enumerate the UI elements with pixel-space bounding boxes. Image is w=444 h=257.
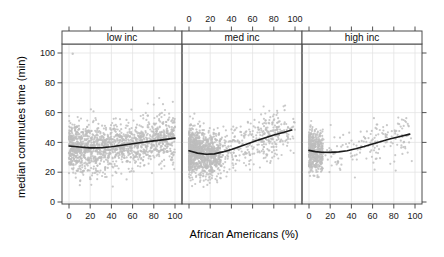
strip-label: high inc — [345, 32, 379, 43]
x-tick-label-bottom: 80 — [149, 211, 159, 221]
x-tick-label-bottom: 60 — [128, 211, 138, 221]
x-tick-label-bottom: 100 — [407, 211, 422, 221]
x-tick-label-top: 80 — [269, 14, 279, 24]
y-tick-label: 60 — [45, 108, 55, 118]
y-axis-title: median commutes time (min) — [15, 56, 27, 198]
x-tick-label-bottom: 80 — [389, 211, 399, 221]
x-tick-label-top: 0 — [186, 14, 191, 24]
plot-canvas: low inc020406080100med inc020406080100hi… — [0, 0, 444, 257]
y-tick-label: 100 — [40, 48, 55, 58]
x-tick-label-bottom: 0 — [306, 211, 311, 221]
x-tick-label-top: 20 — [205, 14, 215, 24]
lattice-figure: low inc020406080100med inc020406080100hi… — [0, 0, 444, 257]
strip-label: med inc — [224, 32, 259, 43]
x-tick-label-bottom: 0 — [66, 211, 71, 221]
x-tick-label-bottom: 40 — [346, 211, 356, 221]
x-tick-label-bottom: 40 — [106, 211, 116, 221]
x-tick-label-bottom: 20 — [85, 211, 95, 221]
x-tick-label-bottom: 20 — [325, 211, 335, 221]
y-tick-label: 20 — [45, 167, 55, 177]
x-tick-label-top: 40 — [226, 14, 236, 24]
x-tick-label-top: 60 — [248, 14, 258, 24]
x-tick-label-top: 100 — [287, 14, 302, 24]
x-tick-label-bottom: 60 — [368, 211, 378, 221]
y-tick-label: 0 — [50, 197, 55, 207]
x-axis-title: African Americans (%) — [190, 228, 299, 240]
x-tick-label-bottom: 100 — [167, 211, 182, 221]
strip-label: low inc — [107, 32, 138, 43]
y-tick-label: 40 — [45, 138, 55, 148]
y-tick-label: 80 — [45, 78, 55, 88]
